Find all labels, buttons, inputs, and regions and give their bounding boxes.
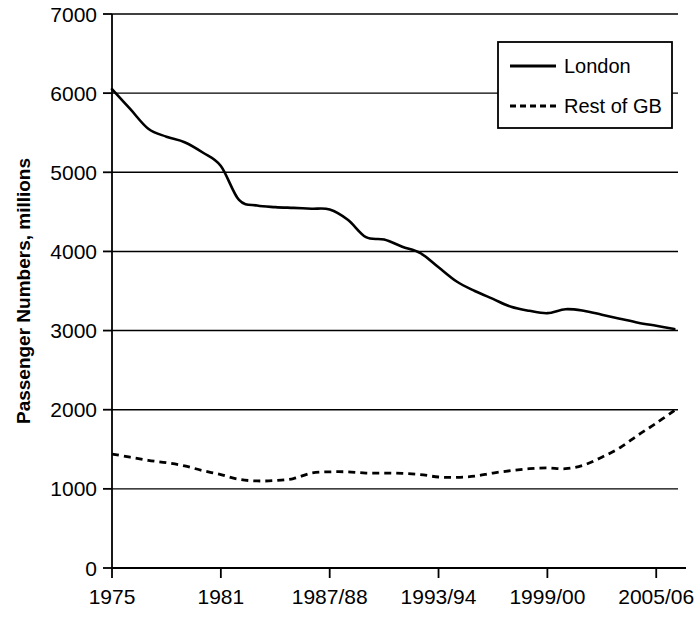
legend-label-london: London <box>564 55 631 77</box>
y-tick-label-0: 0 <box>85 557 97 580</box>
y-axis-ticks: 01000200030004000500060007000 <box>50 3 112 580</box>
chart-legend: London Rest of GB <box>498 42 672 128</box>
y-tick-label-7000: 7000 <box>50 3 97 26</box>
x-tick-label-3: 1993/94 <box>401 585 477 608</box>
chart-container: 01000200030004000500060007000 1975198119… <box>0 0 695 623</box>
y-tick-label-5000: 5000 <box>50 161 97 184</box>
x-tick-label-4: 1999/00 <box>509 585 585 608</box>
x-tick-label-1: 1981 <box>197 585 244 608</box>
y-tick-label-1000: 1000 <box>50 477 97 500</box>
series-line-rest-of-gb <box>112 411 674 482</box>
x-tick-label-5: 2005/06 <box>618 585 694 608</box>
legend-label-rest-of-gb: Rest of GB <box>564 95 662 117</box>
y-tick-label-4000: 4000 <box>50 240 97 263</box>
line-chart: 01000200030004000500060007000 1975198119… <box>0 0 695 623</box>
y-tick-label-6000: 6000 <box>50 82 97 105</box>
x-axis-ticks: 197519811987/881993/941999/002005/06 <box>89 568 695 608</box>
y-tick-label-3000: 3000 <box>50 319 97 342</box>
x-tick-label-2: 1987/88 <box>292 585 368 608</box>
x-tick-label-0: 1975 <box>89 585 136 608</box>
y-tick-label-2000: 2000 <box>50 398 97 421</box>
y-axis-title: Passenger Numbers, millions <box>13 158 34 424</box>
